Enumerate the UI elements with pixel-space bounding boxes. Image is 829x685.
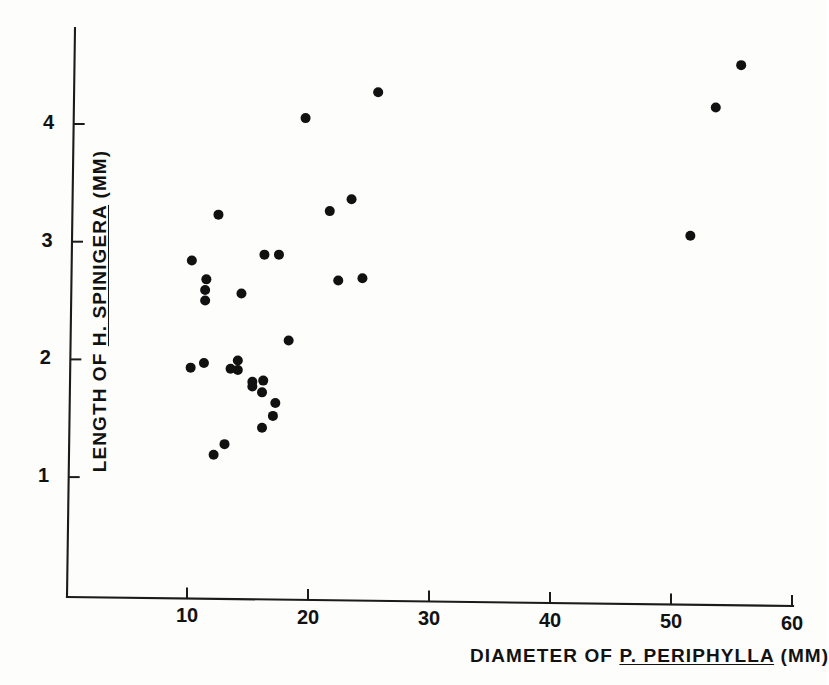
data-point [257, 387, 267, 397]
data-point [186, 363, 196, 373]
data-point [284, 336, 294, 346]
y-axis-line [67, 28, 75, 597]
data-point [201, 274, 211, 284]
x-tick-label-20: 20 [291, 606, 325, 629]
x-tick-label-30: 30 [412, 607, 446, 630]
data-point [257, 423, 267, 433]
data-point [200, 285, 210, 295]
data-point [236, 288, 246, 298]
data-point [258, 376, 268, 386]
data-point [213, 210, 223, 220]
data-point [711, 103, 721, 113]
x-tick-label-60: 60 [775, 612, 809, 635]
data-point [685, 231, 695, 241]
data-point [233, 365, 243, 375]
data-point [274, 250, 284, 260]
y-tick-label-3: 3 [30, 229, 64, 252]
data-point [373, 87, 383, 97]
data-point [325, 206, 335, 216]
x-tick-label-10: 10 [170, 604, 204, 627]
y-axis-label-species: H. SPINIGERA [89, 205, 110, 346]
y-tick-label-4: 4 [32, 111, 66, 134]
x-axis-label: DIAMETER OF P. PERIPHYLLA (MM) [470, 645, 829, 667]
data-point [301, 113, 311, 123]
x-axis-label-pre: DIAMETER OF [470, 645, 619, 666]
data-point [357, 273, 367, 283]
y-tick-label-1: 1 [27, 464, 61, 487]
data-point [247, 381, 257, 391]
y-tick-label-2: 2 [28, 346, 62, 369]
data-point [333, 276, 343, 286]
data-point [347, 194, 357, 204]
data-point [200, 296, 210, 306]
x-tick-label-50: 50 [654, 610, 688, 633]
x-axis-label-post: (MM) [774, 645, 829, 666]
ticks-group [69, 124, 792, 606]
data-point [233, 356, 243, 366]
data-points-group [186, 60, 747, 460]
x-tick-label-40: 40 [533, 609, 567, 632]
data-point [259, 250, 269, 260]
data-point [270, 398, 280, 408]
y-axis-label-pre: LENGTH OF [89, 346, 110, 472]
data-point [736, 60, 746, 70]
data-point [187, 256, 197, 266]
axes-group [67, 28, 793, 606]
x-axis-label-species: P. PERIPHYLLA [619, 645, 774, 666]
data-point [209, 450, 219, 460]
y-axis-label-post: (MM) [89, 150, 110, 205]
data-point [199, 358, 209, 368]
data-point [220, 439, 230, 449]
data-point [268, 411, 278, 421]
y-axis-label: LENGTH OF H. SPINIGERA (MM) [89, 101, 111, 521]
